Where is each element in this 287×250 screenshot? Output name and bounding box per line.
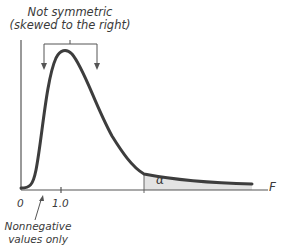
tail-area-label: α — [156, 173, 164, 187]
f-distribution-curve — [21, 51, 252, 188]
bracket-arrow-left-icon — [41, 63, 47, 70]
annotation-bottom-line1: Nonnegative — [4, 220, 72, 233]
f-distribution-diagram — [0, 0, 287, 250]
nonnegative-pointer-line — [35, 200, 41, 220]
annotation-bottom-line2: values only — [4, 233, 72, 246]
bracket-arrow-right-icon — [94, 63, 100, 70]
annotation-top-line2: (skewed to the right) — [0, 19, 140, 32]
annotation-bottom: Nonnegative values only — [4, 220, 72, 246]
annotation-top: Not symmetric (skewed to the right) — [0, 6, 140, 32]
nonnegative-pointer-arrow-icon — [39, 195, 44, 201]
x-axis-label: F — [269, 180, 276, 194]
tick-label-one: 1.0 — [52, 197, 69, 209]
tick-label-zero: 0 — [17, 197, 24, 209]
